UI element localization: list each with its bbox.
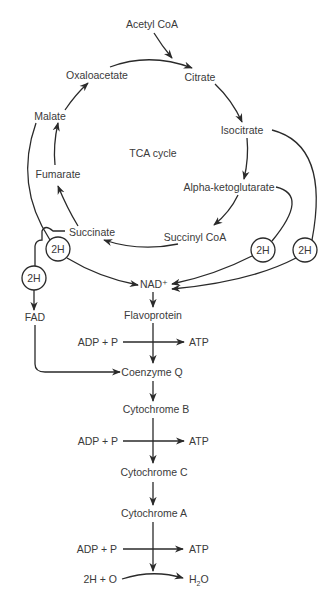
label-tca-cycle: TCA cycle bbox=[129, 147, 176, 159]
arrow-fad-to-coenzyme-q bbox=[35, 325, 120, 372]
arrow-akg-to-succinylcoa bbox=[214, 195, 238, 225]
label-malate: Malate bbox=[34, 110, 66, 122]
label-oxaloacetate: Oxaloacetate bbox=[66, 69, 128, 81]
label-2h-plus-o: 2H + O bbox=[83, 573, 117, 585]
label-atp-1: ATP bbox=[189, 336, 209, 348]
water-h: H bbox=[189, 573, 197, 585]
h2-label: 2H bbox=[51, 243, 64, 255]
label-atp-2: ATP bbox=[189, 435, 209, 447]
label-water: H2O bbox=[189, 573, 209, 587]
label-adp-p-2: ADP + P bbox=[78, 435, 118, 447]
arrow-2h-to-nad-left bbox=[67, 258, 138, 285]
h2-label: 2H bbox=[298, 244, 311, 256]
h2-label: 2H bbox=[27, 272, 40, 284]
label-isocitrate: Isocitrate bbox=[221, 124, 264, 136]
arrow-citrate-to-isocitrate bbox=[215, 84, 242, 122]
arrow-acetylcoa-to-citrate bbox=[154, 33, 172, 58]
label-acetyl-coa: Acetyl CoA bbox=[126, 18, 178, 30]
label-coenzyme-q: Coenzyme Q bbox=[121, 366, 182, 378]
label-flavoprotein: Flavoprotein bbox=[124, 309, 182, 321]
label-alpha-ketoglutarate: Alpha-ketoglutarate bbox=[183, 181, 274, 193]
h2-circle-akg: 2H bbox=[251, 238, 275, 262]
h2-label: 2H bbox=[256, 244, 269, 256]
arrow-isocitrate-to-akg bbox=[244, 138, 248, 179]
arrow-fumarate-to-malate bbox=[54, 123, 58, 165]
label-cytochrome-a: Cytochrome A bbox=[121, 507, 187, 519]
label-cytochrome-b: Cytochrome B bbox=[123, 403, 190, 415]
line-malate-to-2h bbox=[28, 123, 50, 240]
label-succinate: Succinate bbox=[69, 226, 115, 238]
arrow-2h-to-nad-right bbox=[172, 258, 296, 289]
label-fad: FAD bbox=[25, 311, 46, 323]
label-succinyl-coa: Succinyl CoA bbox=[164, 231, 226, 243]
h2-circle-isocitrate: 2H bbox=[293, 238, 317, 262]
water-o: O bbox=[201, 573, 209, 585]
h2-circle-malate: 2H bbox=[46, 237, 70, 261]
line-isocitrate-to-2h bbox=[272, 130, 316, 240]
label-cytochrome-c: Cytochrome C bbox=[120, 466, 188, 478]
label-nad: NAD⁺ bbox=[140, 278, 168, 290]
arrow-2h-to-nad-middle bbox=[172, 256, 252, 284]
line-akg-to-2h bbox=[272, 187, 292, 241]
h2-circle-succinate: 2H bbox=[22, 266, 46, 290]
label-citrate: Citrate bbox=[185, 71, 216, 83]
label-atp-3: ATP bbox=[189, 543, 209, 555]
arrow-oxaloacetate-to-citrate bbox=[110, 60, 192, 68]
label-adp-p-1: ADP + P bbox=[78, 336, 118, 348]
tca-cycle-diagram: Acetyl CoA Citrate Isocitrate Alpha-keto… bbox=[0, 0, 336, 603]
arrow-succinate-to-fumarate bbox=[58, 186, 78, 226]
label-adp-p-3: ADP + P bbox=[77, 543, 117, 555]
label-fumarate: Fumarate bbox=[36, 168, 81, 180]
arrow-malate-to-oxaloacetate bbox=[65, 83, 88, 110]
arrow-to-water bbox=[122, 574, 183, 579]
